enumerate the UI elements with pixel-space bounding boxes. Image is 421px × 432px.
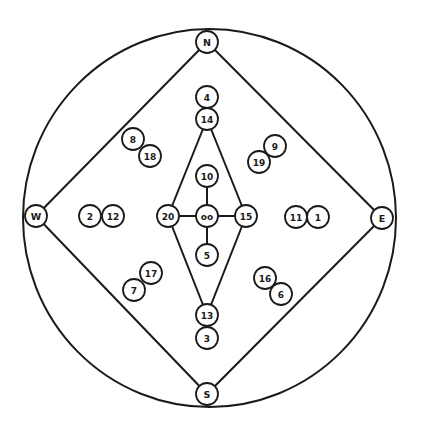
node-12-label: 12 — [107, 212, 120, 222]
node-3: 3 — [196, 327, 218, 349]
edge-S-W — [36, 216, 207, 394]
node-9-label: 9 — [272, 142, 278, 152]
direction-node-w-label: W — [31, 211, 42, 222]
node-8-label: 8 — [130, 135, 136, 145]
edge-E-S — [207, 218, 382, 394]
node-10: 10 — [196, 165, 218, 187]
node-20-label: 20 — [162, 212, 175, 222]
node-2: 2 — [79, 205, 101, 227]
direction-node-e-label: E — [379, 213, 386, 224]
node-11-label: 11 — [290, 213, 303, 223]
node-16-label: 16 — [259, 274, 272, 284]
node-20: 20 — [157, 205, 179, 227]
node-3-label: 3 — [204, 334, 210, 344]
node-5-label: 5 — [204, 251, 210, 261]
node-14-label: 14 — [201, 115, 214, 125]
node-17-label: 17 — [145, 269, 158, 279]
node-15-label: 15 — [240, 212, 253, 222]
node-17: 17 — [140, 262, 162, 284]
node-1-label: 1 — [315, 213, 321, 223]
node-10-label: 10 — [201, 172, 214, 182]
compass-diagram: NESWoo1234567891011121314151617181920 — [0, 0, 421, 432]
edge-n13-n20 — [168, 216, 207, 315]
node-12: 12 — [102, 205, 124, 227]
direction-node-s: S — [196, 383, 218, 405]
center-node-label: oo — [201, 212, 213, 222]
node-2-label: 2 — [87, 212, 93, 222]
direction-node-e: E — [371, 207, 393, 229]
node-13: 13 — [196, 304, 218, 326]
node-13-label: 13 — [201, 311, 214, 321]
node-5: 5 — [196, 244, 218, 266]
node-15: 15 — [235, 205, 257, 227]
node-1: 1 — [307, 206, 329, 228]
node-7-label: 7 — [131, 286, 137, 296]
node-11: 11 — [285, 206, 307, 228]
node-7: 7 — [123, 279, 145, 301]
direction-node-n-label: N — [203, 37, 211, 48]
node-19: 19 — [248, 151, 270, 173]
edge-N-E — [207, 42, 382, 218]
direction-node-s-label: S — [204, 389, 211, 400]
node-16: 16 — [254, 267, 276, 289]
direction-node-w: W — [25, 205, 47, 227]
edge-W-N — [36, 42, 207, 216]
node-18: 18 — [139, 145, 161, 167]
node-19-label: 19 — [253, 158, 266, 168]
node-4: 4 — [196, 86, 218, 108]
node-4-label: 4 — [204, 93, 210, 103]
direction-node-n: N — [196, 31, 218, 53]
node-14: 14 — [196, 108, 218, 130]
node-6-label: 6 — [278, 290, 284, 300]
edge-n13-n15 — [207, 216, 246, 315]
nodes-group: NESWoo1234567891011121314151617181920 — [25, 31, 393, 405]
node-18-label: 18 — [144, 152, 157, 162]
center-node: oo — [196, 205, 218, 227]
node-8: 8 — [122, 128, 144, 150]
